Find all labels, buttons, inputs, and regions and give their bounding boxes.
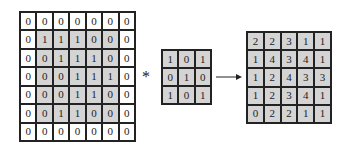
matrix-cell: 1 (247, 68, 264, 86)
matrix-cell: 0 (36, 123, 52, 141)
matrix-cell: 2 (247, 32, 264, 50)
matrix-cell: 1 (53, 104, 69, 122)
matrix-cell: 0 (247, 105, 264, 123)
input-matrix: 0000000011100000111000001110000110000110… (19, 11, 136, 142)
matrix-cell: 3 (281, 32, 298, 50)
kernel-matrix: 101010101 (161, 49, 212, 105)
matrix-cell: 0 (119, 12, 135, 30)
matrix-cell: 3 (281, 50, 298, 68)
matrix-cell: 4 (264, 50, 281, 68)
matrix-cell: 0 (119, 104, 135, 122)
matrix-cell: 1 (53, 30, 69, 48)
matrix-cell: 3 (281, 87, 298, 105)
output-matrix: 2231114341124331234102211 (246, 31, 332, 124)
matrix-cell: 0 (102, 123, 118, 141)
matrix-cell: 4 (281, 68, 298, 86)
matrix-cell: 1 (69, 104, 85, 122)
matrix-cell: 1 (162, 50, 178, 68)
matrix-cell: 0 (119, 86, 135, 104)
matrix-cell: 0 (53, 67, 69, 85)
matrix-cell: 0 (195, 68, 211, 86)
matrix-cell: 0 (20, 123, 36, 141)
matrix-cell: 0 (86, 123, 102, 141)
convolution-operator: * (142, 69, 150, 85)
matrix-cell: 1 (69, 49, 85, 67)
matrix-cell: 0 (119, 49, 135, 67)
matrix-cell: 0 (102, 104, 118, 122)
matrix-cell: 0 (119, 30, 135, 48)
matrix-cell: 0 (178, 86, 194, 104)
matrix-cell: 1 (69, 86, 85, 104)
matrix-cell: 0 (36, 86, 52, 104)
matrix-cell: 0 (69, 12, 85, 30)
matrix-cell: 0 (102, 49, 118, 67)
matrix-cell: 1 (195, 86, 211, 104)
matrix-cell: 0 (36, 67, 52, 85)
matrix-cell: 2 (264, 32, 281, 50)
matrix-cell: 0 (86, 12, 102, 30)
matrix-cell: 0 (20, 86, 36, 104)
matrix-cell: 0 (20, 12, 36, 30)
matrix-cell: 1 (53, 49, 69, 67)
matrix-cell: 0 (86, 30, 102, 48)
matrix-cell: 0 (69, 123, 85, 141)
matrix-cell: 0 (36, 104, 52, 122)
matrix-cell: 0 (102, 30, 118, 48)
matrix-cell: 0 (20, 104, 36, 122)
matrix-cell: 1 (178, 68, 194, 86)
matrix-cell: 1 (69, 30, 85, 48)
matrix-cell: 0 (86, 104, 102, 122)
matrix-cell: 1 (247, 87, 264, 105)
matrix-cell: 3 (297, 68, 314, 86)
matrix-cell: 1 (102, 67, 118, 85)
matrix-cell: 0 (36, 49, 52, 67)
matrix-cell: 0 (102, 86, 118, 104)
matrix-cell: 0 (20, 30, 36, 48)
matrix-cell: 2 (264, 68, 281, 86)
right-arrow-icon (216, 73, 242, 81)
matrix-cell: 0 (119, 67, 135, 85)
matrix-cell: 0 (20, 67, 36, 85)
matrix-cell: 2 (264, 105, 281, 123)
matrix-cell: 1 (162, 86, 178, 104)
matrix-cell: 4 (297, 50, 314, 68)
matrix-cell: 0 (102, 12, 118, 30)
matrix-cell: 1 (86, 49, 102, 67)
matrix-cell: 1 (314, 105, 331, 123)
matrix-cell: 1 (86, 86, 102, 104)
matrix-cell: 0 (20, 49, 36, 67)
matrix-cell: 0 (178, 50, 194, 68)
matrix-cell: 0 (53, 86, 69, 104)
matrix-cell: 0 (53, 12, 69, 30)
matrix-cell: 0 (162, 68, 178, 86)
matrix-cell: 4 (297, 87, 314, 105)
matrix-cell: 1 (86, 67, 102, 85)
matrix-cell: 1 (314, 50, 331, 68)
matrix-cell: 2 (264, 87, 281, 105)
matrix-cell: 1 (36, 30, 52, 48)
matrix-cell: 2 (281, 105, 298, 123)
matrix-cell: 1 (314, 32, 331, 50)
matrix-cell: 0 (53, 123, 69, 141)
matrix-cell: 1 (314, 87, 331, 105)
matrix-cell: 1 (247, 50, 264, 68)
matrix-cell: 0 (119, 123, 135, 141)
matrix-cell: 1 (297, 32, 314, 50)
matrix-cell: 1 (195, 50, 211, 68)
matrix-cell: 0 (36, 12, 52, 30)
matrix-cell: 1 (297, 105, 314, 123)
matrix-cell: 3 (314, 68, 331, 86)
matrix-cell: 1 (69, 67, 85, 85)
